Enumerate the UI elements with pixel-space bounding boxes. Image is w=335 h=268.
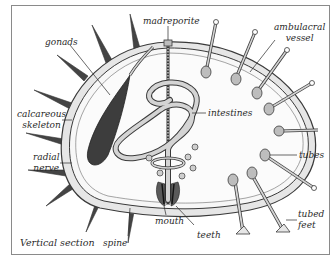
label-teeth: teeth <box>197 230 221 241</box>
label-radial-nerve: radial nerve <box>33 152 60 174</box>
label-calcareous-skeleton: calcareous skeleton <box>17 109 66 131</box>
sea-urchin-diagram: gonads madreporite ambulacral vessel cal… <box>0 0 335 268</box>
caption-line-1: Vertical section <box>20 237 95 249</box>
label-gonads: gonads <box>45 37 78 48</box>
label-spine: spine <box>103 238 127 249</box>
label-tubed-feet: tubed feet <box>298 209 324 231</box>
label-mouth: mouth <box>155 216 184 227</box>
label-tubes: tubes <box>299 150 324 161</box>
figure-caption: Vertical section through a sea urchin. <box>20 213 95 268</box>
label-madreporite: madreporite <box>143 16 200 27</box>
label-intestines: intestines <box>208 108 252 119</box>
label-ambulacral-vessel: ambulacral vessel <box>274 22 325 44</box>
